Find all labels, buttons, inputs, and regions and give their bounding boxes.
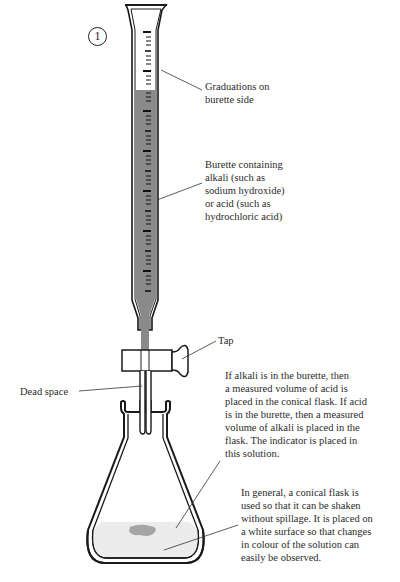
indicator-spot bbox=[129, 525, 156, 536]
tap bbox=[122, 345, 188, 376]
label-dead-space: Dead space bbox=[20, 385, 68, 398]
label-tap: Tap bbox=[218, 334, 234, 347]
leader-graduations bbox=[161, 70, 202, 90]
label-flask-contents: If alkali is in the burette, then a meas… bbox=[225, 369, 367, 460]
leader-dead-space bbox=[79, 386, 142, 391]
label-conical-flask: In general, a conical flask is used so t… bbox=[241, 486, 373, 564]
leader-burette bbox=[157, 183, 202, 200]
step-number-badge: 1 bbox=[88, 27, 107, 46]
label-graduations: Graduations on burette side bbox=[205, 80, 269, 106]
label-burette: Burette containing alkali (such as sodiu… bbox=[205, 158, 285, 223]
